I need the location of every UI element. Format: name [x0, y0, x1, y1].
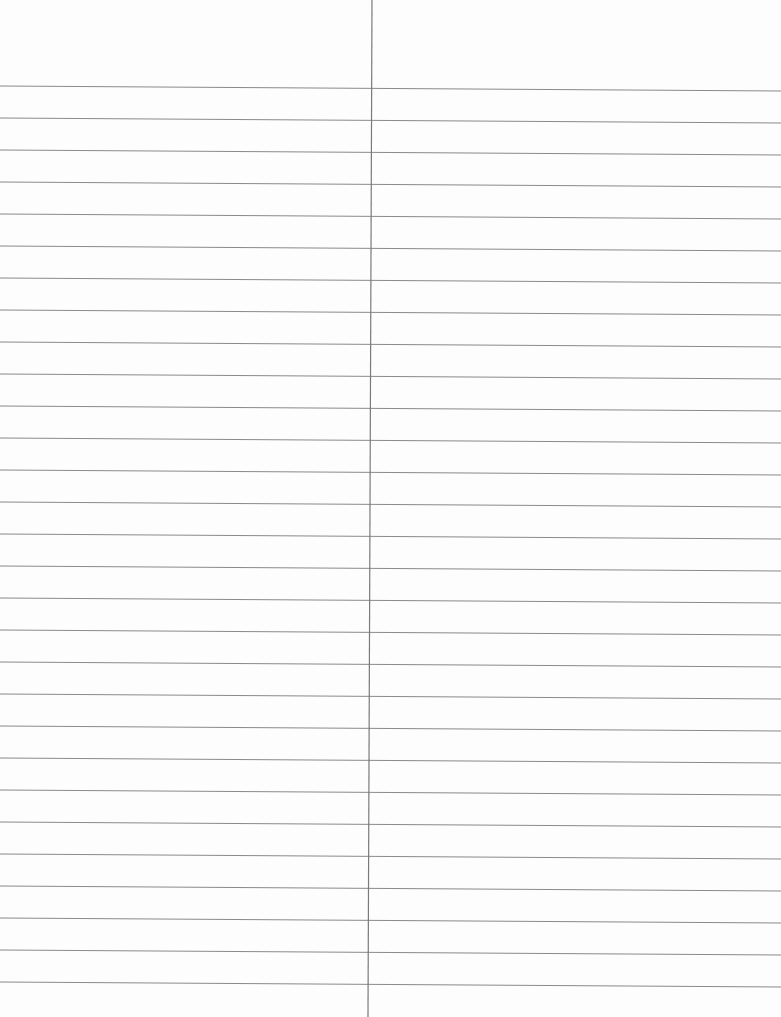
- ruled-line: [0, 566, 781, 571]
- ruled-line: [0, 214, 781, 219]
- ruled-line: [0, 630, 781, 635]
- ruled-line: [0, 278, 781, 283]
- ruled-line: [0, 246, 781, 251]
- ruled-line: [0, 406, 781, 411]
- ruled-line: [0, 694, 781, 699]
- ruled-line: [0, 854, 781, 859]
- ruled-line: [0, 438, 781, 443]
- ruled-line: [0, 310, 781, 315]
- ruled-line: [0, 374, 781, 379]
- ruled-line: [0, 982, 781, 987]
- ruled-line: [0, 534, 781, 539]
- ruled-line: [0, 502, 781, 507]
- ruled-line: [0, 662, 781, 667]
- ruled-lines: [0, 0, 781, 1017]
- ruled-line: [0, 790, 781, 795]
- ruled-line: [0, 182, 781, 187]
- ruled-line: [0, 342, 781, 347]
- ruled-line: [0, 118, 781, 123]
- ruled-line: [0, 758, 781, 763]
- ruled-line: [0, 86, 781, 91]
- ruled-line: [0, 886, 781, 891]
- ruled-line: [0, 918, 781, 923]
- ruled-line: [0, 726, 781, 731]
- ruled-line: [0, 470, 781, 475]
- ruled-line: [0, 950, 781, 955]
- ruled-line: [0, 822, 781, 827]
- lined-paper-page: [0, 0, 781, 1017]
- ruled-line: [0, 150, 781, 155]
- ruled-line: [0, 598, 781, 603]
